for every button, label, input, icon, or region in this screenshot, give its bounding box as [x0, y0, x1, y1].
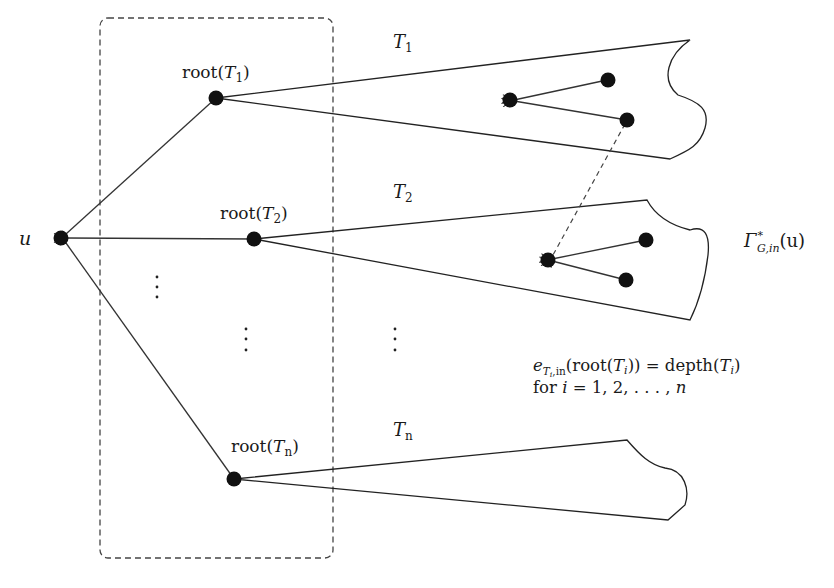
label-root-tn: root(Tn) — [231, 436, 299, 459]
edge-root-t2-to-u — [66, 238, 254, 239]
tree-t2-outline — [254, 200, 708, 320]
node-t1-inner-a — [601, 73, 616, 88]
edge-t1-inner-a — [514, 80, 607, 100]
node-t2-inner-a — [639, 233, 654, 248]
label-root-t2: root(T2) — [220, 203, 288, 226]
node-t2-inner-b — [619, 273, 634, 288]
ellipsis-middle — [245, 328, 248, 352]
label-gamma-in-star: Γ*G,in(u) — [743, 229, 805, 255]
node-root-tn — [227, 472, 242, 487]
label-tree-tn: Tn — [393, 419, 413, 443]
edge-root-tn-to-u — [66, 243, 234, 479]
label-tree-t1: T1 — [393, 31, 413, 55]
node-u — [54, 231, 69, 246]
edge-t1-inner-b — [514, 101, 627, 120]
node-root-t2 — [247, 232, 262, 247]
formula-line-1: eTi,in(root(Ti)) = depth(Ti) — [533, 356, 740, 379]
tree-t1-outline — [216, 40, 706, 159]
edge-t2-inner-b — [552, 261, 626, 280]
edge-root-t1-to-u — [66, 98, 216, 234]
node-root-t1 — [209, 91, 224, 106]
formula-line-2: for i = 1, 2, . . . , n — [533, 378, 686, 397]
label-tree-t2: T2 — [393, 181, 413, 205]
label-root-t1: root(T1) — [182, 62, 250, 85]
ellipsis-right — [394, 328, 397, 352]
tree-tn-outline — [234, 440, 687, 520]
label-u: u — [19, 227, 31, 249]
edge-cross-dashed — [553, 124, 625, 255]
diagram-canvas: u root(T1) root(T2) root(Tn) T1 T2 Tn Γ*… — [0, 0, 834, 588]
node-t1-inner-b — [620, 113, 635, 128]
edge-t2-inner-a — [552, 240, 646, 259]
ellipsis-left — [156, 276, 159, 299]
node-t2-inner-root — [541, 253, 556, 268]
node-t1-inner-root — [503, 93, 518, 108]
